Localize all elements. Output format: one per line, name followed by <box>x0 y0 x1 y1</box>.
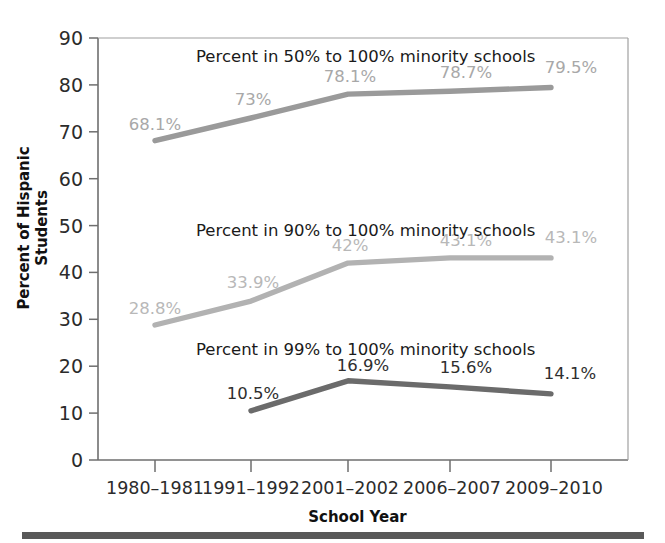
x-axis-ticks <box>155 460 551 472</box>
y-tick-label-60: 60 <box>59 168 83 190</box>
y-axis-tick-labels: 90 80 70 60 50 40 30 20 10 0 <box>59 27 83 471</box>
y-tick-label-80: 80 <box>59 74 83 96</box>
series-50-to-100: 68.1% 73% 78.1% 78.7% 79.5% <box>129 58 597 141</box>
x-tick-label-1991-1992: 1991–1992 <box>202 478 300 498</box>
series-annotation-50-to-100: Percent in 50% to 100% minority schools <box>196 47 535 66</box>
x-axis-title: School Year <box>0 508 665 526</box>
x-tick-label-2006-2007: 2006–2007 <box>403 478 501 498</box>
series-90-to-100-label-1: 33.9% <box>227 273 279 292</box>
y-axis-title: Percent of Hispanic Students <box>15 113 51 343</box>
series-50-to-100-label-0: 68.1% <box>129 115 181 134</box>
series-50-to-100-label-1: 73% <box>235 90 272 109</box>
x-axis-tick-labels: 1980–1981 1991–1992 2001–2002 2006–2007 … <box>106 478 603 498</box>
y-tick-label-70: 70 <box>59 121 83 143</box>
y-tick-label-50: 50 <box>59 215 83 237</box>
y-tick-label-10: 10 <box>59 402 83 424</box>
x-tick-label-2009-2010: 2009–2010 <box>505 478 603 498</box>
y-tick-label-40: 40 <box>59 261 83 283</box>
y-tick-label-20: 20 <box>59 355 83 377</box>
chart-figure: 90 80 70 60 50 40 30 20 10 0 1980–1981 1… <box>0 0 665 543</box>
series-99-to-100-label-2: 15.6% <box>440 358 492 377</box>
series-90-to-100-line <box>155 258 551 325</box>
x-tick-label-2001-2002: 2001–2002 <box>301 478 399 498</box>
series-90-to-100-label-4: 43.1% <box>545 228 597 247</box>
series-99-to-100-label-3: 14.1% <box>544 364 596 383</box>
series-50-to-100-label-2: 78.1% <box>324 67 376 86</box>
series-99-to-100-line <box>251 381 551 411</box>
series-50-to-100-label-4: 79.5% <box>545 58 597 77</box>
series-99-to-100-label-0: 10.5% <box>227 384 279 403</box>
line-chart-canvas: 90 80 70 60 50 40 30 20 10 0 1980–1981 1… <box>0 0 665 543</box>
series-annotation-90-to-100: Percent in 90% to 100% minority schools <box>196 221 535 240</box>
x-axis-title-text: School Year <box>308 508 407 526</box>
figure-footer-rule <box>22 532 644 539</box>
y-tick-label-30: 30 <box>59 308 83 330</box>
y-tick-label-0: 0 <box>71 449 83 471</box>
y-tick-label-90: 90 <box>59 27 83 49</box>
series-90-to-100-label-0: 28.8% <box>129 299 181 318</box>
series-90-to-100: 28.8% 33.9% 42% 43.1% 43.1% <box>129 228 597 325</box>
series-99-to-100: 10.5% 16.9% 15.6% 14.1% <box>227 356 596 411</box>
series-50-to-100-line <box>155 88 551 141</box>
x-tick-label-1980-1981: 1980–1981 <box>106 478 204 498</box>
series-annotation-99-to-100: Percent in 99% to 100% minority schools <box>196 340 535 359</box>
y-axis-ticks <box>89 38 98 460</box>
